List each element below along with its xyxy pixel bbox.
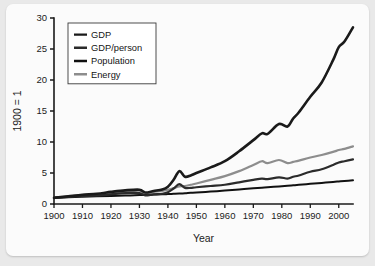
x-axis-ticks: 1900191019201930194019501960197019801990… (43, 204, 349, 221)
x-tick-label: 1930 (129, 210, 150, 221)
legend-label-gdp-person: GDP/person (91, 43, 142, 53)
y-tick-label: 0 (42, 198, 47, 209)
x-tick-label: 1970 (243, 210, 264, 221)
y-tick-label: 20 (36, 74, 47, 85)
line-chart: 051015202530 190019101920193019401950196… (6, 4, 369, 256)
x-tick-label: 1990 (300, 210, 321, 221)
x-tick-label: 1900 (43, 210, 64, 221)
x-axis-title: Year (193, 232, 215, 244)
y-tick-label: 30 (36, 12, 47, 23)
legend-label-population: Population (91, 56, 135, 66)
x-tick-label: 2000 (328, 210, 349, 221)
y-tick-label: 15 (36, 105, 47, 116)
y-tick-label: 10 (36, 136, 47, 147)
y-tick-label: 25 (36, 43, 47, 54)
x-tick-label: 1960 (214, 210, 235, 221)
x-tick-label: 1940 (157, 210, 178, 221)
plot-area: 051015202530 190019101920193019401950196… (6, 4, 369, 256)
y-axis-ticks: 051015202530 (36, 12, 54, 209)
x-tick-label: 1910 (72, 210, 93, 221)
y-axis-title: 1900 = 1 (11, 90, 23, 131)
x-tick-label: 1980 (271, 210, 292, 221)
y-tick-label: 5 (42, 167, 47, 178)
legend-label-energy: Energy (91, 70, 121, 80)
x-tick-label: 1950 (186, 210, 207, 221)
chart-card: 051015202530 190019101920193019401950196… (6, 4, 369, 256)
figure-root: 051015202530 190019101920193019401950196… (0, 0, 375, 266)
x-tick-label: 1920 (100, 210, 121, 221)
legend-label-gdp: GDP (91, 30, 111, 40)
chart-legend: GDPGDP/personPopulationEnergy (68, 23, 156, 84)
